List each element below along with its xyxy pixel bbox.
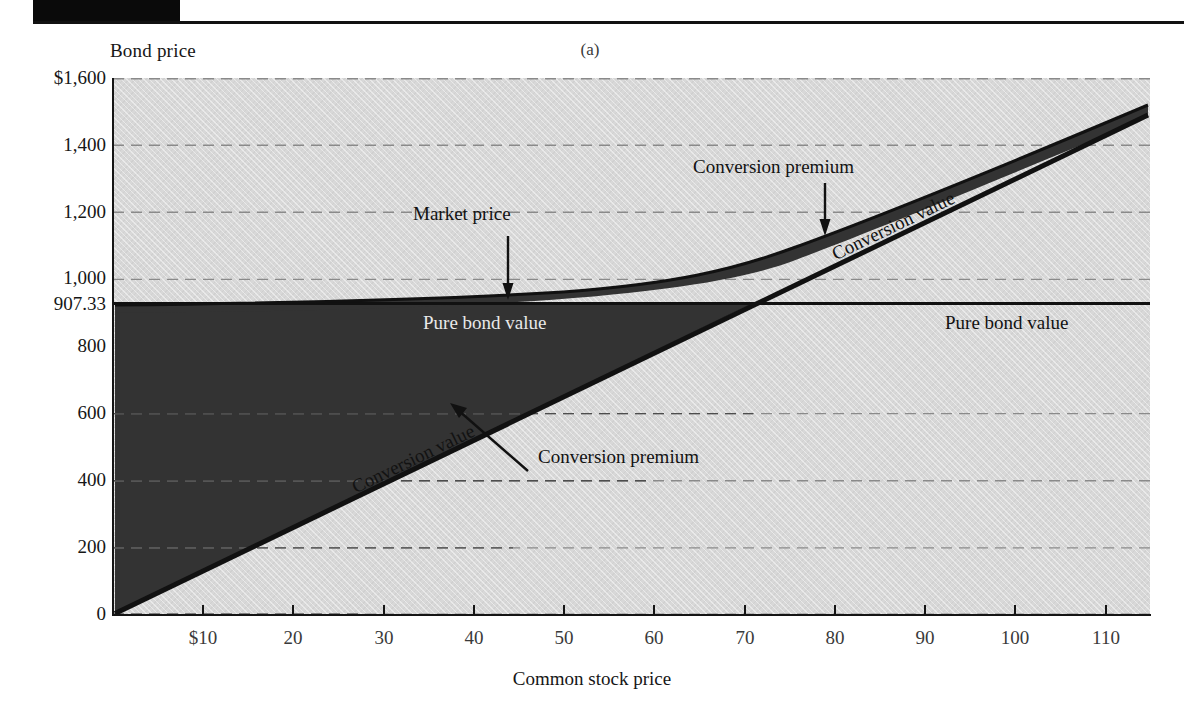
x-axis-tick-marks xyxy=(113,605,1153,619)
y-tick-907: 907.33 xyxy=(6,293,106,315)
figure-canvas: Bond price (a) Common stock price $1,600… xyxy=(0,0,1184,704)
x-tick-100: 100 xyxy=(975,627,1055,649)
x-tick-10: $10 xyxy=(163,627,243,649)
y-axis-line xyxy=(112,78,114,616)
y-tick-0: 0 xyxy=(6,603,106,625)
y-axis-tick-labels: $1,600 1,400 1,200 1,000 907.33 800 600 … xyxy=(0,0,106,704)
x-tick-30: 30 xyxy=(344,627,424,649)
header-rule xyxy=(33,21,1184,24)
x-tick-50: 50 xyxy=(524,627,604,649)
y-tick-1600: $1,600 xyxy=(6,67,106,89)
panel-letter: (a) xyxy=(555,40,625,60)
y-axis-title: Bond price xyxy=(110,40,196,62)
y-tick-1000: 1,000 xyxy=(6,267,106,289)
x-tick-40: 40 xyxy=(434,627,514,649)
x-tick-20: 20 xyxy=(253,627,333,649)
x-tick-70: 70 xyxy=(705,627,785,649)
x-axis-title: Common stock price xyxy=(0,668,1184,690)
chart-svg xyxy=(113,78,1150,615)
y-tick-1400: 1,400 xyxy=(6,134,106,156)
y-tick-1200: 1,200 xyxy=(6,201,106,223)
x-tick-110: 110 xyxy=(1066,627,1146,649)
x-tick-60: 60 xyxy=(614,627,694,649)
line-market-price xyxy=(115,105,1148,305)
y-tick-200: 200 xyxy=(6,536,106,558)
annotation-market-price: Market price xyxy=(413,203,511,225)
y-tick-600: 600 xyxy=(6,402,106,424)
y-tick-800: 800 xyxy=(6,335,106,357)
x-tick-90: 90 xyxy=(885,627,965,649)
x-tick-80: 80 xyxy=(795,627,875,649)
region-conversion-premium-upper xyxy=(115,106,1148,313)
plot-area: Market price Conversion premium Conversi… xyxy=(113,78,1150,615)
annotation-pure-bond-value-right: Pure bond value xyxy=(945,312,1068,334)
annotation-pure-bond-value-left: Pure bond value xyxy=(423,312,546,334)
y-tick-400: 400 xyxy=(6,469,106,491)
annotation-conversion-premium-upper: Conversion premium xyxy=(693,156,854,178)
annotation-conversion-premium-lower: Conversion premium xyxy=(538,446,699,468)
